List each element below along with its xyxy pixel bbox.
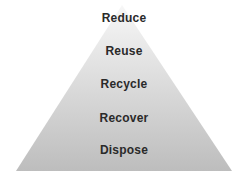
tier-label-dispose: Dispose	[0, 143, 240, 157]
tier-label-recycle: Recycle	[0, 77, 240, 91]
tier-label-reduce: Reduce	[0, 11, 240, 25]
tier-label-recover: Recover	[0, 111, 240, 125]
tier-label-reuse: Reuse	[0, 44, 240, 58]
